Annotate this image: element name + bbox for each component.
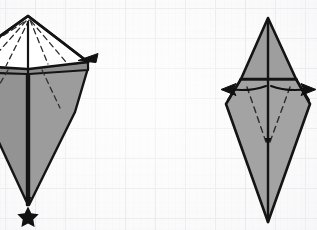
left-figure-body-left-panel xyxy=(0,64,28,205)
left-figure-body-right-panel xyxy=(29,68,88,205)
origami-illustration xyxy=(0,0,317,230)
figure-left xyxy=(0,16,88,205)
annotation-star-group xyxy=(17,197,38,227)
reference-point-star xyxy=(17,207,38,227)
diagram-canvas: Origami folding diagram Kite form, white… xyxy=(0,0,317,230)
figure-right xyxy=(226,18,310,222)
left-figure-white-hood xyxy=(0,16,88,69)
